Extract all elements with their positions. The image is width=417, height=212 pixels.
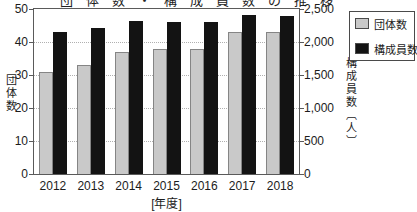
right-axis-tick-label: 2,000 — [304, 36, 346, 49]
right-axis-tick-label: 1,500 — [304, 69, 346, 82]
left-axis-tick-label: 0 — [1, 168, 28, 181]
legend-item-members: 構成員数 — [355, 41, 409, 57]
bar-members-2012 — [53, 32, 67, 174]
bar-groups-2016 — [190, 49, 204, 174]
left-axis-tick — [29, 141, 33, 142]
legend-label-groups: 団体数 — [374, 16, 407, 32]
legend: 団体数 構成員数 — [349, 11, 415, 61]
right-axis-tick-label: 1,000 — [304, 102, 346, 115]
bar-groups-2013 — [77, 65, 91, 174]
bar-groups-2014 — [115, 52, 129, 174]
bar-members-2013 — [91, 28, 105, 174]
left-axis-tick-label: 10 — [1, 135, 28, 148]
bar-members-2017 — [242, 15, 256, 174]
x-tick-label-2015: 2015 — [147, 179, 187, 193]
x-tick-label-2012: 2012 — [33, 179, 73, 193]
left-axis-tick — [29, 108, 33, 109]
left-axis-tick — [29, 174, 33, 175]
left-axis-tick-label: 20 — [1, 102, 28, 115]
legend-swatch-members — [355, 43, 369, 54]
right-axis-tick-label: 500 — [304, 135, 346, 148]
legend-label-members: 構成員数 — [374, 41, 417, 57]
x-tick-label-2013: 2013 — [71, 179, 111, 193]
left-axis-tick-label: 50 — [1, 3, 28, 16]
plot-area — [33, 8, 300, 175]
x-tick-label-2016: 2016 — [184, 179, 224, 193]
left-axis-tick-label: 40 — [1, 36, 28, 49]
x-axis-title: [年度] — [133, 194, 200, 211]
right-axis-tick-label: 0 — [304, 168, 346, 181]
left-axis-tick-label: 30 — [1, 69, 28, 82]
bar-groups-2017 — [228, 32, 242, 174]
x-tick-label-2018: 2018 — [260, 179, 300, 193]
bar-members-2014 — [129, 21, 143, 174]
legend-swatch-groups — [355, 18, 369, 29]
left-axis-tick — [29, 42, 33, 43]
bar-members-2018 — [280, 16, 294, 174]
left-axis-tick — [29, 75, 33, 76]
x-tick-label-2017: 2017 — [222, 179, 262, 193]
bar-groups-2015 — [153, 49, 167, 174]
bar-groups-2018 — [266, 32, 280, 174]
x-tick-label-2014: 2014 — [109, 179, 149, 193]
chart-figure: 団体数・構成員数の推移 団体数 構成員数〔人〕 [年度] 団体数 構成員数 20… — [0, 0, 417, 212]
bar-groups-2012 — [39, 72, 53, 174]
legend-item-groups: 団体数 — [355, 16, 409, 32]
bar-members-2015 — [167, 22, 181, 174]
right-axis-tick-label: 2,500 — [304, 3, 346, 16]
left-axis-tick — [29, 9, 33, 10]
bar-members-2016 — [204, 22, 218, 174]
